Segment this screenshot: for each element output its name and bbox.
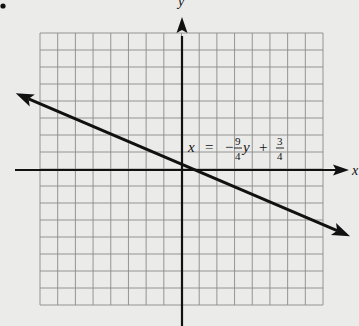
bullet-dot [0, 3, 5, 8]
x-axis-label: x [351, 163, 359, 178]
y-axis-arrow-icon [177, 17, 188, 33]
eq-equals: = [205, 139, 213, 155]
eq-lhs: x [187, 139, 195, 155]
eq-frac2-numerator: 3 [277, 135, 283, 147]
eq-var-y: y [241, 139, 250, 155]
eq-frac1-denominator: 4 [235, 150, 241, 162]
graph-figure: x y x = − 9 4 y + 3 4 [0, 0, 359, 326]
eq-frac1-numerator: 9 [235, 135, 241, 147]
eq-minus: − [225, 139, 233, 155]
equation-label: x = − 9 4 y + 3 4 [186, 131, 294, 167]
y-axis-label: y [176, 0, 185, 9]
eq-plus: + [259, 139, 267, 155]
eq-frac2-denominator: 4 [277, 150, 283, 162]
